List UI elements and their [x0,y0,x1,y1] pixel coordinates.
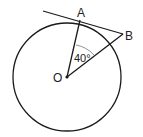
label-A: A [77,6,85,20]
geometry-diagram: A B O 40° [0,0,143,137]
label-O: O [53,71,62,85]
label-B: B [125,29,133,43]
angle-label: 40° [74,52,91,64]
center-point [65,75,68,78]
